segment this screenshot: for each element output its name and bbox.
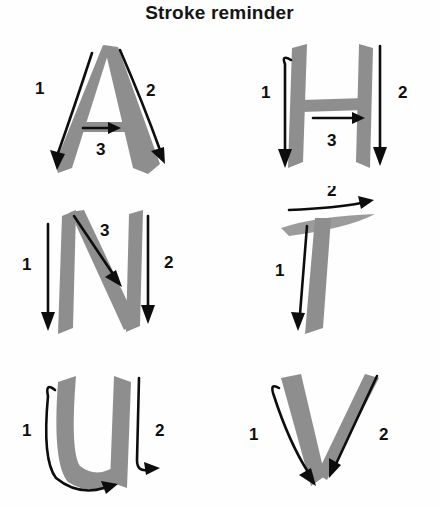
letter-cell-u: 1 2 xyxy=(0,356,219,507)
stroke-arrow-1 xyxy=(291,226,307,331)
stroke-number-1: 1 xyxy=(22,421,31,440)
stroke-number-2: 2 xyxy=(398,83,407,102)
stroke-number-2: 2 xyxy=(164,253,173,272)
stroke-number-3: 3 xyxy=(327,131,336,150)
letter-cell-n: 1 2 3 xyxy=(0,186,219,356)
stroke-arrow-2 xyxy=(329,376,377,478)
stroke-arrow-3 xyxy=(74,216,122,287)
stroke-arrow-1 xyxy=(41,224,55,331)
stroke-number-1: 1 xyxy=(35,79,44,98)
stroke-number-2: 2 xyxy=(146,81,155,100)
letter-grid: 1 2 3 xyxy=(0,28,439,507)
letter-cell-h: 1 2 3 xyxy=(219,28,439,186)
stroke-number-2: 2 xyxy=(155,421,164,440)
stroke-number-2: 2 xyxy=(379,425,388,444)
stroke-number-1: 1 xyxy=(22,255,31,274)
stroke-number-1: 1 xyxy=(275,261,284,280)
stroke-arrow-2 xyxy=(141,216,155,324)
letter-cell-t: 1 2 xyxy=(219,186,439,356)
stroke-number-3: 3 xyxy=(96,140,105,159)
stroke-number-2: 2 xyxy=(327,186,336,200)
glyph-u xyxy=(56,376,131,490)
stroke-number-1: 1 xyxy=(249,425,258,444)
letter-cell-v: 1 2 xyxy=(219,356,439,507)
stroke-number-3: 3 xyxy=(100,221,109,240)
page-title: Stroke reminder xyxy=(0,2,439,24)
stroke-reminder-sheet: Stroke reminder 1 xyxy=(0,0,439,507)
letter-cell-a: 1 2 3 xyxy=(0,28,219,186)
stroke-arrow-2 xyxy=(373,46,387,166)
stroke-number-1: 1 xyxy=(261,83,270,102)
